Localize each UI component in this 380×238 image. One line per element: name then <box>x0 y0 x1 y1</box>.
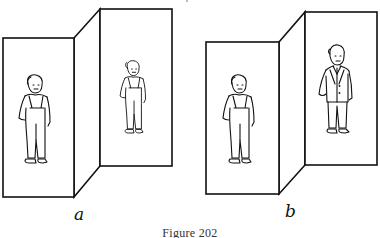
panel-a-front-screen <box>3 38 74 197</box>
panel-b-label: b <box>285 203 296 220</box>
panel-a-label: a <box>74 206 84 223</box>
panel-a-screen <box>3 9 172 197</box>
panel-a-fold-side <box>74 9 100 197</box>
figure-caption: Figure 202 <box>0 227 380 238</box>
panel-b-front-screen <box>206 42 279 194</box>
figure-202: a b Figure 202 <box>0 0 380 238</box>
panel-b-back-screen <box>305 12 377 165</box>
panel-b-fold-side <box>279 12 305 194</box>
panel-a-drawing <box>0 0 380 238</box>
panel-b-screen <box>206 12 377 194</box>
